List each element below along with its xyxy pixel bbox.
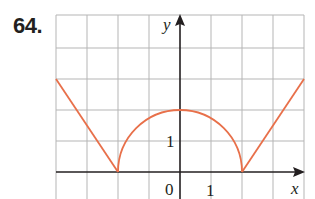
graph: y x 0 1 1 (0, 0, 315, 199)
y-axis-label: y (161, 15, 171, 34)
x-tick-label-1: 1 (206, 181, 215, 199)
y-tick-label-1: 1 (166, 132, 175, 151)
x-axis-label: x (290, 179, 299, 198)
origin-label: 0 (165, 180, 174, 199)
